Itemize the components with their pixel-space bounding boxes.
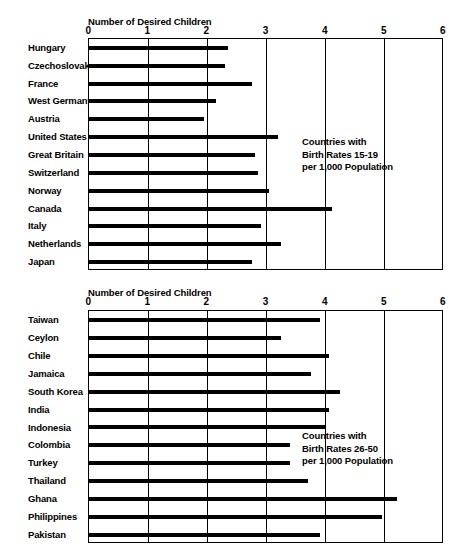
annotation-bottom: Countries with Birth Rates 26-50 per 1,0… [302,430,393,468]
category-label: United States [28,131,87,142]
bar [89,242,281,246]
category-label: Taiwan [28,313,59,324]
category-label: Ghana [28,493,57,504]
bar [89,207,332,211]
bar [89,260,252,264]
category-label: India [28,403,49,414]
bar [89,408,329,412]
x-tick-label: 4 [322,296,328,307]
category-label: Chile [28,349,50,360]
bar [89,354,329,358]
category-label: Turkey [28,457,58,468]
bar-row [89,490,442,508]
x-axis-tick-labels-top: 0123456 [0,25,456,38]
x-tick-label: 2 [204,296,210,307]
bar [89,336,281,340]
bar [89,46,228,50]
x-tick-label: 1 [144,296,150,307]
bar [89,224,261,228]
bar-row [89,200,442,218]
bar [89,171,258,175]
bar-row [89,401,442,419]
x-tick-label: 4 [322,25,328,36]
category-label: Jamaica [28,367,64,378]
bar [89,82,252,86]
category-label: Austria [28,113,60,124]
bar [89,479,308,483]
category-label: France [28,77,58,88]
x-tick-label: 1 [144,25,150,36]
x-tick-label: 6 [440,25,446,36]
bar [89,189,269,193]
category-label: Netherlands [28,238,81,249]
category-label: West Germany [28,95,93,106]
category-label: Ceylon [28,331,59,342]
category-label: Great Britain [28,149,84,160]
x-tick-label: 0 [85,296,91,307]
bar [89,533,320,537]
bar-row [89,329,442,347]
bar-row [89,472,442,490]
category-label: Canada [28,202,61,213]
bar [89,64,225,68]
bar-row [89,347,442,365]
x-tick-label: 3 [263,296,269,307]
category-labels-top: HungaryCzechoslovakiaFranceWest GermanyA… [0,38,84,270]
category-label: Philippines [28,511,77,522]
category-label: Colombia [28,439,70,450]
bar [89,117,204,121]
bar [89,135,278,139]
category-label: Norway [28,184,61,195]
category-label: Italy [28,220,46,231]
bar [89,153,255,157]
bar [89,390,340,394]
bar [89,443,290,447]
chart-panel-bottom: Number of Desired Children 0123456 Taiwa… [0,272,456,554]
x-tick-label: 5 [381,296,387,307]
bar [89,461,290,465]
bar-row [89,182,442,200]
bar-row [89,383,442,401]
category-label: Pakistan [28,529,66,540]
bar-row [89,508,442,526]
x-tick-label: 6 [440,296,446,307]
category-labels-bottom: TaiwanCeylonChileJamaicaSouth KoreaIndia… [0,310,84,543]
bar [89,497,397,501]
x-axis-tick-labels-bottom: 0123456 [0,296,456,309]
category-label: Switzerland [28,166,79,177]
annotation-line-2: Birth Rates 26-50 [302,443,393,456]
category-label: Japan [28,256,55,267]
bar-row [89,110,442,128]
bar [89,318,320,322]
bar-row [89,93,442,111]
bar [89,515,382,519]
bar-row [89,217,442,235]
plot-area-bottom [88,310,443,543]
category-label: South Korea [28,385,83,396]
bar [89,99,216,103]
annotation-line-1: Countries with [302,136,393,149]
bar [89,425,326,429]
bar-row [89,57,442,75]
x-tick-label: 3 [263,25,269,36]
annotation-line-1: Countries with [302,430,393,443]
annotation-line-3: per 1,000 Population [302,455,393,468]
bar-row [89,365,442,383]
annotation-top: Countries with Birth Rates 15-19 per 1,0… [302,136,393,174]
bar-row [89,526,442,544]
x-tick-label: 5 [381,25,387,36]
annotation-line-2: Birth Rates 15-19 [302,149,393,162]
bar-row [89,39,442,57]
category-label: Thailand [28,475,66,486]
annotation-line-3: per 1,000 Population [302,161,393,174]
category-label: Hungary [28,41,65,52]
chart-panel-top: Number of Desired Children 0123456 Hunga… [0,0,456,278]
bar-rows-bottom [89,311,442,542]
bar-row [89,311,442,329]
bar [89,372,311,376]
x-tick-label: 2 [204,25,210,36]
bar-row [89,253,442,271]
bar-row [89,75,442,93]
category-label: Indonesia [28,421,71,432]
category-label: Czechoslovakia [28,59,97,70]
